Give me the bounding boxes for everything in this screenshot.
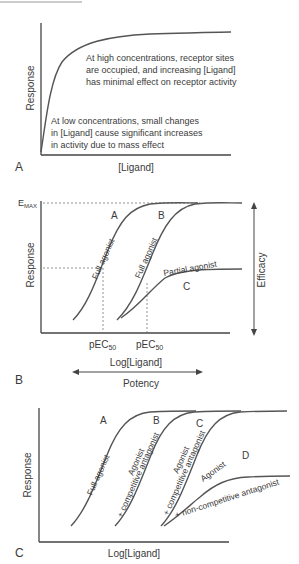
efficacy-arrow-down-icon — [251, 329, 257, 336]
panel-c-letter: C — [15, 546, 24, 560]
pharmacology-figure: At high concentrations, receptor sites a… — [0, 0, 299, 564]
annotation-low-line1: At low concentrations, small changes — [51, 116, 200, 126]
annotation-low-line2: in [Ligand] cause significant increases — [51, 128, 203, 138]
panel-b-letter: B — [15, 373, 23, 387]
annotation-low-line3: in activity due to mass effect — [51, 140, 164, 150]
curve-b-letter: B — [158, 210, 165, 221]
panel-b-x-label: Log[Ligand] — [110, 357, 162, 368]
efficacy-label: Efficacy — [256, 253, 267, 288]
panel-a-x-label: [Ligand] — [118, 162, 154, 173]
panel-c: A B C D Full agonist Agonist + competiti… — [15, 408, 290, 560]
panel-b: EMAX A B C Full agonist Full agonist Par… — [15, 198, 267, 389]
panel-a-letter: A — [15, 160, 23, 174]
curve-b-full-agonist — [117, 203, 242, 320]
curve-a-letter: A — [100, 415, 107, 426]
panel-c-y-label: Response — [22, 452, 33, 497]
potency-arrow-right-icon — [196, 369, 203, 375]
curve-a-letter: A — [111, 210, 118, 221]
curve-b-text-line2: + competitive antagonist — [115, 430, 162, 519]
curve-a-text: Full agonist — [85, 452, 112, 496]
potency-arrow-left-icon — [72, 369, 79, 375]
annotation-high-line1: At high concentrations, receptor sites — [86, 53, 235, 63]
curve-a-full-agonist — [73, 203, 198, 320]
annotation-high-line2: are occupied, and increasing [Ligand] — [86, 65, 236, 75]
potency-label: Potency — [123, 378, 159, 389]
curve-b-text: Full agonist — [133, 235, 160, 279]
emax-label: EMAX — [18, 198, 37, 209]
panel-b-y-label: Response — [25, 242, 36, 287]
curve-c-letter: C — [183, 281, 190, 292]
panel-a: At high concentrations, receptor sites a… — [15, 23, 237, 174]
efficacy-arrow-up-icon — [251, 202, 257, 209]
curve-d-text-line1: Agonist — [198, 459, 227, 484]
curve-c-text: Partial agonist — [163, 259, 218, 278]
curve-a-text: Full agonist — [90, 236, 117, 280]
pec50-b-label: pEC50 — [136, 339, 163, 351]
curve-b-letter: B — [153, 415, 160, 426]
panel-a-y-label: Response — [25, 65, 36, 110]
panel-c-x-label: Log[Ligand] — [108, 548, 160, 559]
pec50-a-label: pEC50 — [89, 339, 116, 351]
curve-d-letter: D — [242, 450, 249, 461]
curve-d-text-line2: + non-competitive antagonist — [174, 477, 281, 520]
annotation-high-line3: has minimal effect on receptor activity — [86, 77, 237, 87]
curve-c-letter: C — [196, 418, 203, 429]
